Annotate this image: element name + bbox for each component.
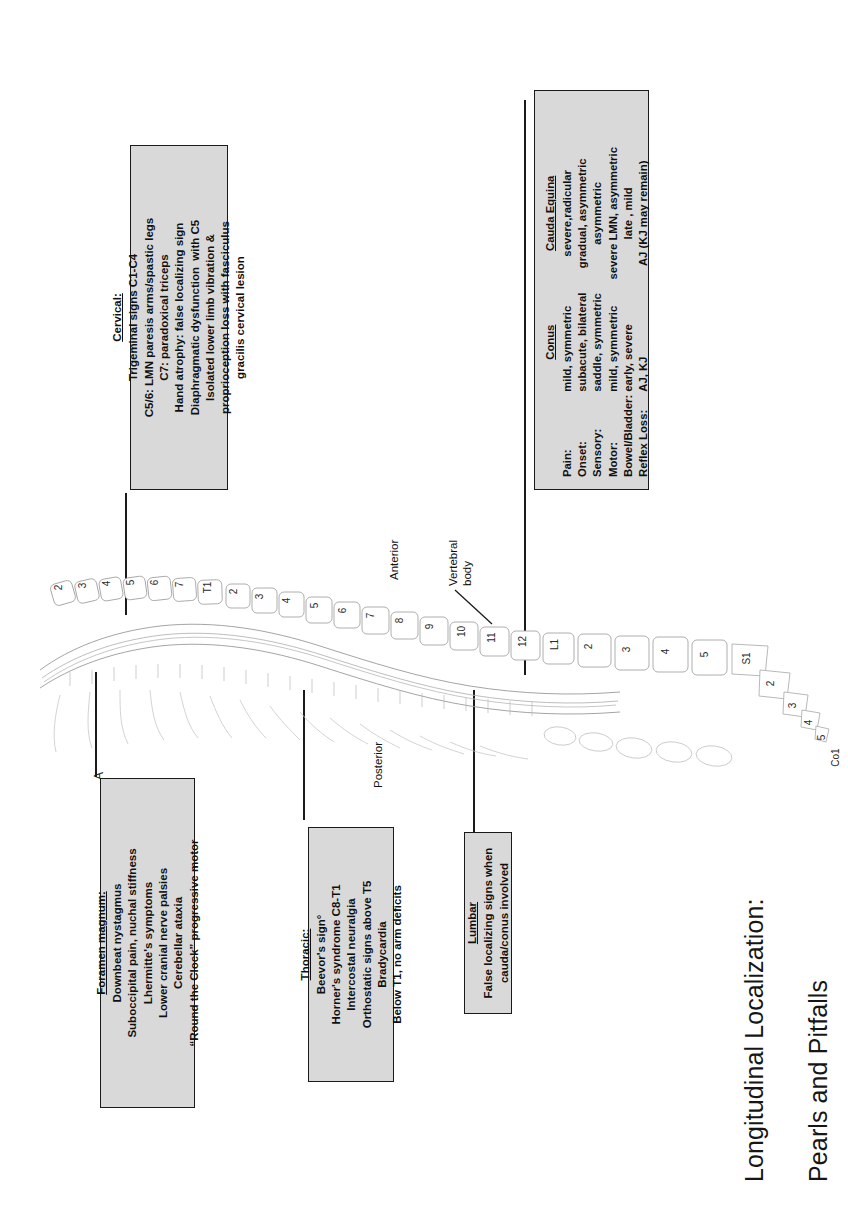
table-row: Onset: subacute, bilateral gradual, asym… [575,144,590,477]
vertebra-number: 11 [486,632,497,642]
table-row: Motor: mild, symmetric severe LMN, asymm… [606,144,621,477]
sacral-number: 2 [765,681,776,687]
info-box-foramen-magnum-line: Downbeat nystagmus [110,884,125,1003]
sacral-number: 5 [816,735,827,741]
vertebra-number: 4 [281,598,292,604]
info-box-cervical-line: C5/6: LMN paresis arms/spastic legs [142,218,157,417]
info-box-thoracic-line: Beevor's sign° [314,915,329,995]
row-cauda-value: severe LMN, asymmetric [606,144,621,290]
info-box-cervical: Cervical: Trigeminal signs C1-C4 C5/6: L… [130,145,228,490]
vertebra-number: 3 [621,647,632,653]
info-box-thoracic-line: Orthostatic signs above T5 [360,881,375,1029]
spine-illustration: 2 3 4 5 6 7 T1 2 3 4 5 6 7 8 9 10 11 12 … [0,520,848,780]
info-box-foramen-magnum-line: Cerebellar ataxia [171,897,186,989]
info-box-lumbar-line: False localizing signs when [481,848,496,999]
info-box-foramen-magnum-heading: Foramen magnum: [93,891,109,995]
row-conus-value: mild, symmetric [606,290,621,392]
table-row: Sensory: saddle, symmetric asymmetric [590,144,605,477]
row-cauda-value: AJ (KJ may remain) [636,144,651,290]
info-box-cervical-line: Diaphragmatic dysfunction with C5 [188,220,203,416]
sacral-number: 4 [803,720,814,726]
vertebra-number: 6 [337,608,348,614]
row-cauda-value: asymmetric [590,144,605,290]
vertebra-number: T1 [202,582,213,594]
row-label: Pain: [560,392,575,477]
info-box-thoracic-line: Intercostal neuralgia [344,898,359,1010]
vertebra-number: L1 [549,639,560,650]
info-box-foramen-magnum-line: Lhermitte's symptoms [141,882,156,1004]
vertebra-number: 6 [149,580,160,586]
vertebra-number: 5 [309,603,320,609]
row-conus-value: early, severe [621,290,636,392]
vertebral-body-leader [455,590,492,624]
vertebra-number: 9 [424,624,435,630]
info-box-thoracic-line: Bradycardia [375,921,390,987]
info-box-foramen-magnum-line: Lower cranial nerve palsies [156,868,171,1018]
info-box-cervical-heading: Cervical: [109,293,125,342]
info-box-thoracic-line: Horner's syndrome C8-T1 [329,884,344,1024]
info-box-foramen-magnum: Foramen magnum: Downbeat nystagmus Suboc… [100,778,195,1108]
info-box-cervical-line: Trigeminal signs C1-C4 [126,254,141,381]
sacral-number: S1 [741,652,752,664]
row-conus-value: subacute, bilateral [575,290,590,392]
vertebra-number: 3 [254,594,265,600]
info-box-thoracic-line: Below T1, no arm deficits [390,885,405,1024]
vertebra-number: 3 [77,583,88,589]
conus-column-heading: Conus [543,290,560,392]
info-box-cervical-line: C7: paradoxical triceps [157,254,172,381]
page-title: Longitudinal Localization: Pearls and Pi… [706,899,834,1196]
table-header-row: Conus Cauda Equina [543,144,560,477]
vertebra-number: 2 [228,589,239,595]
row-label: Sensory: [590,392,605,477]
row-label: Motor: [606,392,621,477]
vertebra-number: 5 [125,580,136,586]
info-box-lumbar-heading: Lumbar [464,902,480,944]
vertebra-number: 4 [660,649,671,655]
vertebra-number: 5 [699,652,710,658]
page-title-line-1: Longitudinal Localization: [740,899,768,1182]
anterior-label: Anterior [388,540,400,580]
info-box-cervical-line: Isolated lower limb vibration & [203,234,218,401]
cauda-column-heading: Cauda Equina [543,144,560,290]
sacral-number: 3 [787,703,798,709]
row-label: Onset: [575,392,590,477]
info-box-cervical-line: proprioception loss with fasciculus [218,221,233,414]
info-box-conus-cauda-equina: Conus Cauda Equina Pain: mild, symmetric… [534,90,649,490]
info-box-lumbar-line: cauda/conus involved [497,863,512,983]
table-row: Bowel/Bladder: early, severe late , mild [621,144,636,477]
vertebra-number: 2 [53,585,64,591]
info-box-cervical-line: Hand atrophy: false localizing sign [172,223,187,413]
vertebra-number: 4 [101,581,112,587]
conus-cauda-table: Conus Cauda Equina Pain: mild, symmetric… [543,144,651,477]
vertebra-number: 2 [583,644,594,650]
vertebra-number: 7 [174,582,185,588]
vertebra-number: 7 [365,613,376,619]
vertebra-number: 10 [456,626,467,637]
vertebra-number: 12 [517,636,528,647]
page-title-line-2: Pearls and Pitfalls [804,980,832,1182]
row-label: Reflex Loss: [636,392,651,477]
row-conus-value: AJ, KJ [636,290,651,392]
row-label-header [543,392,560,477]
spine-svg [0,520,848,780]
info-box-lumbar: Lumbar False localizing signs when cauda… [464,832,512,1014]
info-box-foramen-magnum-line: “Round the Clock” progressive motor [187,839,202,1046]
posterior-label: Posterior [372,742,384,788]
coccyx-label: Co1 [830,748,841,766]
row-cauda-value: severe,radicular [560,144,575,290]
row-conus-value: saddle, symmetric [590,290,605,392]
info-box-thoracic-heading: Thoracic: [297,929,313,981]
vertebra-number: 8 [394,618,405,624]
table-row: Reflex Loss: AJ, KJ AJ (KJ may remain) [636,144,651,477]
row-conus-value: mild, symmetric [560,290,575,392]
info-box-foramen-magnum-line: Suboccipital pain, nuchal stiffness [125,848,140,1037]
row-cauda-value: late , mild [621,144,636,290]
info-box-thoracic: Thoracic: Beevor's sign° Horner's syndro… [308,827,394,1082]
row-label: Bowel/Bladder: [621,392,636,477]
info-box-cervical-line: gracilis cervical lesion [233,256,248,379]
table-row: Pain: mild, symmetric severe,radicular [560,144,575,477]
vertebral-body-label: Vertebral body [446,540,475,586]
row-cauda-value: gradual, asymmetric [575,144,590,290]
